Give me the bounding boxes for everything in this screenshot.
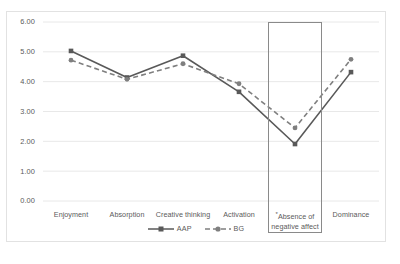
data-point-marker-aap: [293, 142, 298, 147]
series-line-bg: [71, 59, 351, 128]
gridlines: [43, 22, 379, 201]
legend-label-bg: BG: [234, 224, 245, 233]
data-point-marker-aap: [237, 90, 242, 95]
data-point-marker-aap: [349, 70, 354, 75]
legend-label-aap: AAP: [177, 224, 192, 233]
data-point-marker-bg: [181, 61, 186, 66]
line-chart-plot: [7, 12, 387, 243]
legend-item-bg[interactable]: BG: [205, 224, 245, 233]
data-point-marker-bg: [125, 77, 130, 82]
chart-legend: AAP BG: [7, 224, 385, 233]
series-line-aap: [71, 51, 351, 144]
legend-item-aap[interactable]: AAP: [148, 224, 192, 233]
data-point-marker-bg: [237, 81, 242, 86]
data-point-marker-bg: [69, 58, 74, 63]
legend-marker-dashed-line-icon: [205, 225, 231, 233]
chart-container: 0.001.002.003.004.005.006.00 EnjoymentAb…: [6, 11, 386, 242]
legend-marker-solid-line-icon: [148, 225, 174, 233]
data-point-marker-aap: [69, 49, 74, 54]
data-series-layer: [69, 49, 354, 147]
data-point-marker-aap: [181, 53, 186, 58]
data-point-marker-bg: [349, 57, 354, 62]
data-point-marker-bg: [293, 126, 298, 131]
